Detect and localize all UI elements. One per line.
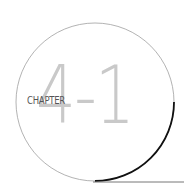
chapter-label: CHAPTER <box>27 95 65 106</box>
chapter-badge: 4-1 CHAPTER <box>0 0 184 195</box>
